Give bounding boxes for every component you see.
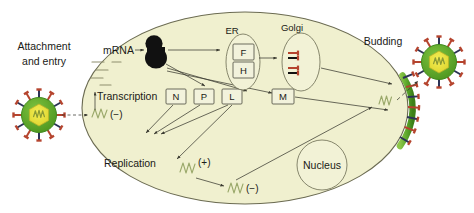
antigenome-sign: (+) bbox=[198, 157, 211, 168]
protein-box-F-label: F bbox=[241, 47, 247, 58]
golgi-label: Golgi bbox=[281, 22, 303, 33]
nucleus-label: Nucleus bbox=[303, 159, 341, 171]
virus-replication-diagram: (−) mRNA Transcription bbox=[0, 0, 474, 213]
figure-canvas: (−) mRNA Transcription bbox=[0, 0, 474, 213]
protein-box-H-label: H bbox=[240, 65, 247, 76]
protein-box-M: M bbox=[272, 89, 294, 104]
attachment-entry-label-line2: and entry bbox=[22, 55, 67, 67]
mrna-label: mRNA bbox=[103, 44, 134, 56]
budding-label: Budding bbox=[364, 35, 403, 47]
protein-box-P-label: P bbox=[201, 91, 207, 102]
transcription-label: Transcription bbox=[97, 90, 157, 102]
protein-box-M-label: M bbox=[279, 91, 287, 102]
protein-box-P: P bbox=[194, 89, 214, 104]
protein-box-N: N bbox=[166, 89, 186, 104]
protein-box-L-label: L bbox=[229, 91, 234, 102]
protein-box-N-label: N bbox=[173, 91, 180, 102]
progeny-genome-sign: (−) bbox=[246, 183, 259, 194]
protein-box-L: L bbox=[222, 89, 242, 104]
input-virion bbox=[14, 90, 65, 141]
entry-genome-sign: (−) bbox=[110, 109, 123, 120]
replication-label: Replication bbox=[104, 157, 156, 169]
protein-box-F: F bbox=[233, 44, 254, 60]
protein-box-H: H bbox=[233, 62, 254, 78]
organelle-nucleus: Nucleus bbox=[297, 140, 347, 190]
er-label: ER bbox=[225, 25, 238, 36]
progeny-virion bbox=[414, 37, 465, 88]
attachment-entry-label-line1: Attachment bbox=[17, 40, 70, 52]
